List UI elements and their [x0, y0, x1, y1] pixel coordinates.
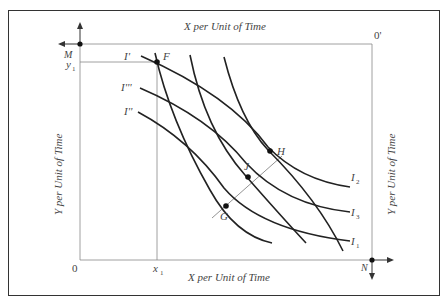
corner-n-label: N — [360, 262, 369, 273]
svg-text:1: 1 — [356, 242, 360, 250]
curve-i3-label: I 3 — [350, 206, 360, 221]
indifference-curve-b1 — [155, 53, 272, 243]
x1-label: x 1 — [152, 262, 164, 277]
curve-i-triple-prime-label: I''' — [120, 81, 132, 93]
origin-b-label: 0' — [374, 29, 382, 41]
top-axis-label: X per Unit of Time — [183, 20, 266, 32]
svg-text:3: 3 — [356, 213, 360, 221]
m-corner-arrows — [58, 22, 83, 47]
indifference-curve-i1 — [138, 112, 350, 241]
point-g-label: G — [220, 210, 228, 222]
y1-label: y 1 — [65, 58, 76, 73]
point-g — [223, 203, 229, 209]
indifference-curve-b2 — [190, 55, 306, 243]
origin-a-label: 0 — [72, 262, 78, 274]
point-j — [245, 174, 251, 180]
left-axis-label: Y per Unit of Time — [52, 134, 64, 215]
svg-text:2: 2 — [356, 178, 360, 186]
svg-text:1: 1 — [160, 269, 164, 277]
curve-i-prime-label: I' — [123, 50, 131, 62]
point-f-label: F — [162, 50, 170, 62]
right-axis-label: Y per Unit of Time — [385, 134, 397, 215]
curve-i-double-prime-label: I'' — [123, 105, 133, 117]
point-h-label: H — [276, 145, 286, 157]
n-corner-arrows — [369, 257, 394, 280]
point-h — [267, 148, 273, 154]
svg-text:y: y — [65, 58, 71, 70]
svg-text:1: 1 — [72, 65, 76, 73]
point-f — [154, 59, 160, 65]
edgeworth-box-diagram: X per Unit of Time X per Unit of Time Y … — [0, 0, 448, 304]
curve-i1-label: I 1 — [350, 235, 360, 250]
svg-text:x: x — [152, 262, 158, 274]
bottom-axis-label: X per Unit of Time — [187, 271, 270, 283]
curve-i2-label: I 2 — [350, 171, 360, 186]
